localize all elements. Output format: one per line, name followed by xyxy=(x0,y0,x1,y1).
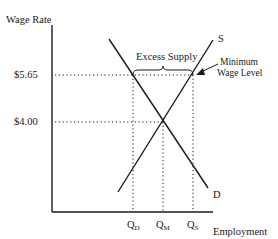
excess-supply-brace xyxy=(133,66,193,75)
min-wage-arrow-head xyxy=(196,68,205,75)
supply-label: S xyxy=(218,34,224,45)
min-wage-label-line1: Minimum xyxy=(220,58,258,68)
x-tick-qs-main: Q xyxy=(187,219,195,230)
x-tick-qs: QS xyxy=(187,220,199,232)
x-tick-qd: QD xyxy=(127,220,140,232)
x-axis-label: Employment xyxy=(213,227,267,238)
diagram-canvas xyxy=(0,0,278,239)
x-tick-qd-sub: D xyxy=(135,224,140,232)
y-axis-label: Wage Rate xyxy=(6,15,52,26)
demand-label: D xyxy=(213,190,221,201)
min-wage-label-line2: Wage Level xyxy=(217,69,262,79)
x-tick-qd-main: Q xyxy=(127,219,135,230)
x-tick-qm: QM xyxy=(156,220,170,232)
y-tick-min-wage: $5.65 xyxy=(14,70,38,81)
excess-supply-label: Excess Supply xyxy=(136,52,198,63)
supply-curve xyxy=(118,40,213,192)
x-tick-qm-main: Q xyxy=(156,219,164,230)
y-tick-equilibrium-wage: $4.00 xyxy=(14,117,38,128)
x-tick-qm-sub: M xyxy=(164,224,170,232)
x-tick-qs-sub: S xyxy=(195,224,199,232)
